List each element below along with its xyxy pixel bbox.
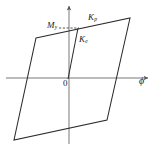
label-origin: 0 [63,79,68,88]
label-elastic-stiffness: Ke [79,35,88,45]
figure-canvas [0,0,156,151]
elastic-stiffness-line [68,28,78,79]
label-yield-moment: My [47,21,57,31]
label-post-yield-stiffness: Kp [88,13,97,23]
label-x-axis-phi: ϕ [139,76,144,86]
hysteresis-loop-path [14,18,130,140]
hysteresis-loop-figure: My Kp Ke 0 ϕ [0,0,156,151]
axes-group [6,6,148,144]
